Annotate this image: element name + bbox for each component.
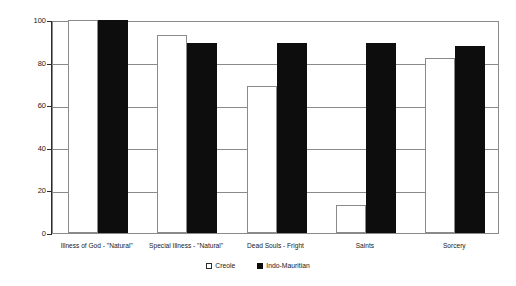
y-axis-tick-label: 80 xyxy=(4,60,46,68)
y-axis-tick-label: 60 xyxy=(4,102,46,110)
bar-creole xyxy=(247,86,277,233)
bar-creole xyxy=(425,58,455,233)
bar-indo-mauritian xyxy=(455,46,485,233)
y-axis-tick-label: 0 xyxy=(4,230,46,238)
plot-area xyxy=(52,21,499,234)
bar-creole xyxy=(68,20,98,233)
legend-label-indo-mauritian: Indo-Mauritian xyxy=(266,263,309,270)
bar-creole xyxy=(157,35,187,233)
legend-item-creole[interactable]: Creole xyxy=(206,263,235,270)
legend-item-indo-mauritian[interactable]: Indo-Mauritian xyxy=(257,263,309,270)
white-square-swatch-icon xyxy=(206,263,212,269)
x-axis-category-label: Sorcery xyxy=(394,243,514,250)
bar-indo-mauritian xyxy=(98,20,128,233)
y-axis-tick-label: 40 xyxy=(4,145,46,153)
bar-creole xyxy=(336,205,366,233)
y-axis-tick-label: 20 xyxy=(4,187,46,195)
bar-indo-mauritian xyxy=(187,43,217,233)
y-axis-tick-mark xyxy=(47,234,51,235)
legend-label-creole: Creole xyxy=(215,263,235,270)
y-axis-tick-mark xyxy=(47,149,51,150)
y-axis-tick-mark xyxy=(47,21,51,22)
black-square-swatch-icon xyxy=(257,263,263,269)
chart-legend: Creole Indo-Mauritian xyxy=(0,263,516,270)
bar-chart: % OF ETHNIC GROUP 020406080100 Illness o… xyxy=(0,0,516,286)
y-axis-tick-mark xyxy=(47,106,51,107)
y-axis-tick-mark xyxy=(47,64,51,65)
y-axis-tick-label: 100 xyxy=(4,17,46,25)
y-axis-tick-mark xyxy=(47,191,51,192)
bar-indo-mauritian xyxy=(277,43,307,233)
bar-indo-mauritian xyxy=(366,43,396,233)
